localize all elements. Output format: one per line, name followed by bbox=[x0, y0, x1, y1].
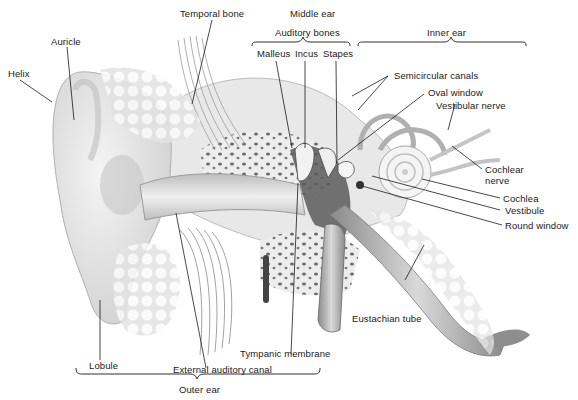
label-round-window: Round window bbox=[505, 220, 569, 231]
label-external-auditory-canal: External auditory canal bbox=[173, 364, 272, 375]
muscle-fibers-lower bbox=[180, 228, 232, 355]
fat-tissue-right bbox=[370, 210, 494, 355]
label-stapes: Stapes bbox=[323, 48, 353, 59]
label-malleus: Malleus bbox=[257, 48, 290, 59]
cochlea-shape bbox=[379, 146, 431, 198]
label-cochlear-nerve-line2: nerve bbox=[485, 175, 509, 186]
external-canal-leader bbox=[176, 213, 206, 368]
label-temporal-bone: Temporal bone bbox=[180, 8, 244, 19]
label-outer-ear: Outer ear bbox=[179, 384, 220, 395]
temporal-bone-shape bbox=[160, 36, 408, 295]
label-cochlea: Cochlea bbox=[503, 193, 539, 204]
inner-ear-bracket bbox=[358, 37, 526, 46]
auditory-bones-bracket bbox=[252, 37, 350, 46]
ear-illustration bbox=[0, 0, 578, 400]
label-middle-ear: Middle ear bbox=[290, 8, 335, 19]
stapes-shape bbox=[338, 161, 354, 178]
label-auditory-bones: Auditory bones bbox=[275, 27, 340, 38]
label-incus: Incus bbox=[295, 48, 318, 59]
semicircular-leader-1 bbox=[352, 76, 388, 96]
label-inner-ear: Inner ear bbox=[427, 27, 466, 38]
ear-anatomy-diagram: Helix Auricle Temporal bone Middle ear A… bbox=[0, 0, 578, 400]
round-window-shape bbox=[356, 181, 364, 189]
label-helix: Helix bbox=[8, 68, 30, 79]
helix-leader bbox=[20, 80, 52, 102]
fat-tissue-lower bbox=[113, 243, 180, 335]
vessel bbox=[263, 255, 269, 303]
label-oval-window: Oval window bbox=[428, 87, 483, 98]
label-tympanic-membrane: Tympanic membrane bbox=[240, 348, 330, 359]
label-auricle: Auricle bbox=[51, 36, 81, 47]
label-vestibule: Vestibule bbox=[505, 205, 544, 216]
label-semicircular-canals: Semicircular canals bbox=[394, 70, 478, 81]
label-lobule: Lobule bbox=[89, 360, 118, 371]
semicircular-leader-2 bbox=[358, 76, 388, 110]
label-cochlear-nerve-line1: Cochlear bbox=[485, 164, 524, 175]
label-vestibular-nerve: Vestibular nerve bbox=[436, 100, 506, 111]
label-eustachian-tube: Eustachian tube bbox=[352, 313, 422, 324]
